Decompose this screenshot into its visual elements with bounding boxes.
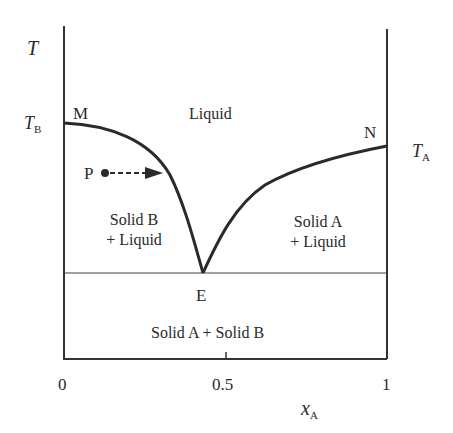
ta-sub: A bbox=[422, 151, 430, 163]
point-n-label: N bbox=[364, 124, 376, 141]
point-e-label: E bbox=[196, 287, 206, 304]
temp-ta-label: TA bbox=[412, 142, 430, 160]
region-solid-b-liquid-line2: + Liquid bbox=[84, 230, 184, 250]
point-p-label: P bbox=[84, 165, 93, 182]
region-solid-b-liquid-line1: Solid B bbox=[84, 210, 184, 230]
x-tick-0: 0 bbox=[58, 376, 67, 393]
x-tick-0.5: 0.5 bbox=[212, 376, 233, 393]
liquidus-curve-a bbox=[203, 146, 387, 273]
arrow-head-icon bbox=[145, 167, 163, 179]
point-p-marker bbox=[101, 169, 109, 177]
tb-sub: B bbox=[34, 123, 41, 135]
phase-diagram-canvas bbox=[0, 0, 453, 433]
region-solid-a-liquid-line2: + Liquid bbox=[268, 232, 368, 252]
ta-main: T bbox=[412, 141, 422, 161]
tb-main: T bbox=[24, 113, 34, 133]
x-axis-label-main: x bbox=[301, 397, 310, 419]
y-axis-label: T bbox=[27, 38, 38, 58]
region-solid-a-liquid: Solid A + Liquid bbox=[268, 212, 368, 252]
x-axis-label-sub: A bbox=[310, 409, 318, 421]
region-solid-a-liquid-line1: Solid A bbox=[268, 212, 368, 232]
x-axis-label: xA bbox=[301, 398, 318, 418]
x-tick-1: 1 bbox=[382, 376, 391, 393]
liquidus-curve-b bbox=[64, 123, 203, 273]
region-liquid: Liquid bbox=[189, 106, 232, 122]
region-solid-b-liquid: Solid B + Liquid bbox=[84, 210, 184, 250]
region-solid-a-solid-b: Solid A + Solid B bbox=[151, 325, 264, 341]
point-m-label: M bbox=[73, 105, 88, 122]
temp-tb-label: TB bbox=[24, 114, 41, 132]
